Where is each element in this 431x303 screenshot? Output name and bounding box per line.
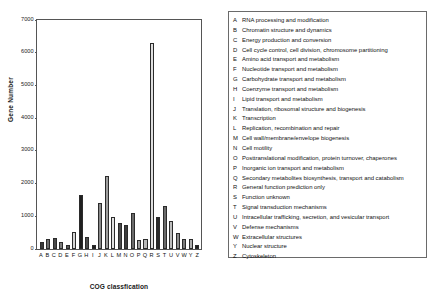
x-axis-title: COG classfication [36,283,202,290]
legend-description: Signal transduction mechanisms [242,203,327,213]
legend-key: E [233,55,242,65]
legend-item-T: TSignal transduction mechanisms [233,203,423,213]
legend-item-G: GCarbohydrate transport and metabolism [233,75,423,85]
legend-key: R [233,183,242,193]
legend-key: G [233,75,242,85]
legend-item-B: BChromatin structure and dynamics [233,26,423,36]
legend-description: Carbohydrate transport and metabolism [242,75,346,85]
bar-L [111,217,115,249]
legend-key: Q [233,174,242,184]
legend-description: Nucleotide transport and metabolism [242,65,338,75]
bar-P [137,240,141,249]
legend-key: D [233,46,242,56]
bar-slot [194,20,200,249]
legend-item-V: VDefense mechanisms [233,223,423,233]
legend-item-E: EAmino acid transport and metabolism [233,55,423,65]
legend-description: Function unknown [242,193,290,203]
legend-item-H: HCoenzyme transport and metabolism [233,85,423,95]
legend-description: General function prediction only [242,183,325,193]
legend-item-Y: YNuclear structure [233,242,423,252]
legend-key: T [233,203,242,213]
legend-item-R: RGeneral function prediction only [233,183,423,193]
bar-F [72,232,76,249]
bar-O [131,213,135,249]
legend-item-A: ARNA processing and modification [233,16,423,26]
legend-key: C [233,36,242,46]
legend-item-S: SFunction unknown [233,193,423,203]
legend-item-I: ILipid transport and metabolism [233,95,423,105]
legend-key: M [233,134,242,144]
legend-item-M: MCell wall/membrane/envelope biogenesis [233,134,423,144]
bar-W [182,239,186,249]
bar-S [156,217,160,249]
bar-I [92,245,96,249]
bar-G [79,195,83,249]
legend-key: J [233,105,242,115]
legend-item-Z: ZCytoskeleton [233,252,423,262]
plot-area: 01000200030004000500060007000 [36,19,202,250]
legend-key: U [233,213,242,223]
legend-description: Cell motility [242,144,272,154]
bar-Q [143,239,147,249]
legend-description: Amino acid transport and metabolism [242,55,339,65]
legend-key: B [233,26,242,36]
bar-Y [189,239,193,249]
legend-description: Replication, recombination and repair [242,124,340,134]
bar-Z [195,245,199,249]
bar-J [98,203,102,249]
bar-M [118,223,122,249]
legend-description: Lipid transport and metabolism [242,95,323,105]
legend-key: I [233,95,242,105]
cog-classification-figure: Gene Number 0100020003000400050006000700… [0,0,431,303]
legend-key: V [233,223,242,233]
y-tick-label: 2000 [21,179,33,185]
legend-description: Extracellular structures [242,233,302,243]
bar-N [124,225,128,249]
legend-item-Q: QSecondary metabolites biosynthesis, tra… [233,174,423,184]
bar-B [46,239,50,249]
legend-description: Energy production and conversion [242,36,331,46]
y-tick-label: 7000 [21,16,33,22]
bar-chart: Gene Number 0100020003000400050006000700… [0,0,225,303]
legend-key: H [233,85,242,95]
legend-key: W [233,233,242,243]
bar-V [176,233,180,249]
legend-description: Cell wall/membrane/envelope biogenesis [242,134,349,144]
legend-description: Transcription [242,114,276,124]
bar-U [169,221,173,249]
legend-key: S [233,193,242,203]
bar-A [40,242,44,249]
legend-item-J: JTranslation, ribosomal structure and bi… [233,105,423,115]
legend-description: Inorganic ion transport and metabolism [242,164,344,174]
legend-description: Nuclear structure [242,242,287,252]
x-tick-label-Z: Z [194,252,201,258]
bar-T [163,206,167,249]
legend-key: P [233,164,242,174]
legend-description: Cytoskeleton [242,252,276,262]
bar-H [85,237,89,249]
bar-K [105,176,109,249]
legend-key: Z [233,252,242,262]
y-tick-label: 5000 [21,81,33,87]
bar-series [37,20,202,249]
legend-key: K [233,114,242,124]
y-tick-label: 6000 [21,48,33,54]
y-tick-label: 4000 [21,114,33,120]
legend-description: RNA processing and modification [242,16,329,26]
legend-item-P: PInorganic ion transport and metabolism [233,164,423,174]
bar-R [150,43,154,249]
legend-item-N: NCell motility [233,144,423,154]
legend-box: ARNA processing and modificationBChromat… [228,11,427,258]
y-tick-label: 0 [30,245,33,251]
x-axis-tick-labels: ABCDEFGHIJKLMNOPQRSTUVWYZ [36,252,202,258]
legend-item-K: KTranscription [233,114,423,124]
legend-item-U: UIntracellular trafficking, secretion, a… [233,213,423,223]
legend-description: Translation, ribosomal structure and bio… [242,105,366,115]
legend-description: Intracellular trafficking, secretion, an… [242,213,389,223]
legend-key: L [233,124,242,134]
legend-item-D: DCell cycle control, cell division, chro… [233,46,423,56]
legend-item-W: WExtracellular structures [233,233,423,243]
legend-key: O [233,154,242,164]
y-axis-title: Gene Number [7,55,14,145]
legend-description: Chromatin structure and dynamics [242,26,332,36]
